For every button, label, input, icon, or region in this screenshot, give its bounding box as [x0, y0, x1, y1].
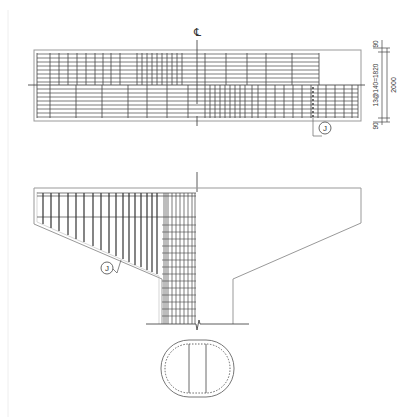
rebar-drawing: J ℄ 90 13@140=1820 2000 90: [0, 0, 403, 417]
callout-j-top-label: J: [323, 124, 327, 133]
dim-total: 2000: [390, 77, 397, 93]
elevation-view: J: [34, 172, 361, 330]
plan-view: J ℄ 90 13@140=1820 2000 90: [28, 26, 397, 136]
dim-top: 90: [372, 40, 379, 48]
column-section: [161, 340, 234, 397]
callout-j-bottom-label: J: [105, 264, 109, 273]
centerline-label: ℄: [193, 26, 201, 38]
dim-spacing: 13@140=1820: [372, 63, 379, 106]
dim-bottom: 90: [372, 122, 379, 130]
